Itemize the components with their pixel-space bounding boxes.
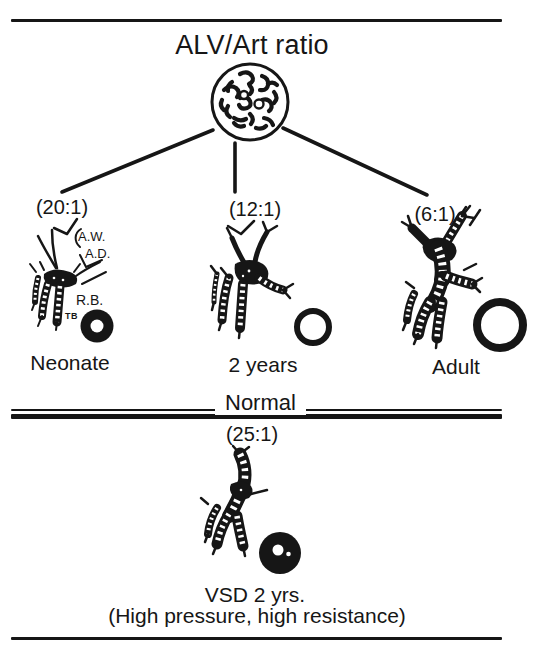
artery-ring-2years-icon [297, 311, 329, 343]
annotation-rb: R.B. [76, 292, 103, 308]
airway-tree-2years-icon [205, 216, 335, 351]
annotation-ad: A.D. [85, 246, 110, 261]
artery-ring-adult-icon [477, 302, 523, 348]
annotation-tb: TB [65, 311, 78, 321]
connector-right [283, 128, 427, 195]
airway-tree-vsd-icon [195, 444, 315, 584]
vsd-caption-line2: (High pressure, high resistance) [107, 604, 407, 627]
small-vessel-icon [240, 91, 248, 99]
top-rule [11, 19, 502, 22]
ratio-label-neonate: (20:1) [12, 196, 112, 218]
annotation-aw: A.W. [78, 229, 105, 244]
normal-divider-label: Normal [215, 391, 306, 415]
age-label-2years: 2 years [213, 353, 313, 376]
age-label-adult: Adult [406, 355, 506, 378]
airway-tree-adult-icon [390, 198, 530, 358]
connector-lines [40, 120, 440, 200]
small-vessel-icon [255, 100, 264, 109]
figure-page: ALV/Art ratio [0, 0, 558, 654]
artery-donut-neonate-icon [81, 310, 114, 343]
figure-title: ALV/Art ratio [129, 31, 375, 61]
ratio-label-vsd: (25:1) [202, 423, 302, 445]
vsd-caption-line1: VSD 2 yrs. [155, 583, 355, 606]
connector-left [62, 130, 213, 192]
bottom-rule [11, 637, 502, 640]
age-label-neonate: Neonate [20, 351, 120, 374]
occluded-artery-icon [259, 532, 301, 574]
